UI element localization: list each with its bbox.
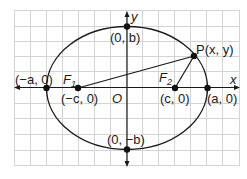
focus-right-label: F2 bbox=[159, 70, 172, 87]
ellipse-diagram: y x O (0, b) (0, −b) (−a, 0) (a, 0) P(x,… bbox=[0, 0, 247, 179]
co-vertex-top-label: (0, b) bbox=[110, 30, 140, 45]
vertex-right-label: (a, 0) bbox=[207, 91, 237, 106]
focus-right-coord-label: (c, 0) bbox=[160, 91, 190, 106]
point-co-vertex-top bbox=[124, 23, 130, 29]
origin-label: O bbox=[112, 91, 122, 106]
point-co-vertex-bottom bbox=[124, 146, 130, 152]
y-axis-label: y bbox=[130, 9, 139, 24]
co-vertex-bottom-label: (0, −b) bbox=[107, 132, 145, 147]
focus-left-coord-label: (−c, 0) bbox=[61, 91, 98, 106]
point-p-label: P(x, y) bbox=[196, 42, 234, 57]
y-axis-down-arrow-icon bbox=[125, 161, 130, 167]
focus-left-label: F1 bbox=[63, 72, 76, 89]
x-axis-label: x bbox=[229, 72, 237, 87]
vertex-left-label: (−a, 0) bbox=[15, 72, 53, 87]
y-axis-up-arrow-icon bbox=[125, 11, 130, 17]
